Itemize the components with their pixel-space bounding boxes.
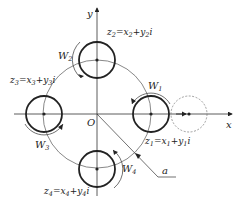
x-axis-label: x [226, 119, 232, 130]
moment-label-w4: W4 [122, 163, 136, 176]
complex-plane-diagram: x y O a W1 z1=x1+y1i W2 z2=x2+y2i W3 z3=… [0, 0, 242, 205]
label-z4: z4=x4+y4i [43, 186, 89, 198]
circle-z2: W2 z2=x2+y2i [58, 27, 152, 78]
dashed-circle-center [187, 112, 190, 115]
circle-z3: W3 z3=x3+y3i [9, 75, 63, 152]
y-axis-label: y [86, 8, 93, 19]
circle-z4: W4 z4=x4+y4i [43, 150, 136, 198]
moment-label-w2: W2 [58, 50, 72, 63]
moment-label-w1: W1 [148, 80, 162, 93]
moment-arrow-icon [131, 98, 136, 104]
origin-label: O [87, 117, 95, 128]
moment-label-w3: W3 [35, 139, 49, 152]
label-z3: z3=x3+y3i [9, 75, 55, 87]
radius-label: a [162, 165, 168, 176]
label-z2: z2=x2+y2i [106, 27, 152, 39]
label-z1: z1=x1+y1i [144, 136, 190, 148]
